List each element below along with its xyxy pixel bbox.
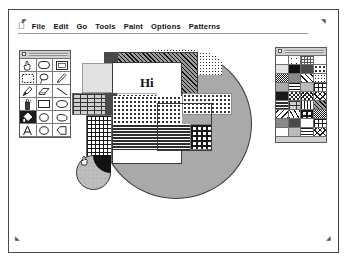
pattern-swatch[interactable]	[276, 56, 289, 65]
tool-rectangle[interactable]	[53, 59, 70, 72]
pattern-swatch[interactable]	[314, 119, 327, 128]
pattern-swatch[interactable]	[314, 101, 327, 110]
pattern-swatch[interactable]	[301, 56, 314, 65]
pattern-swatch[interactable]	[301, 128, 314, 137]
tool-palette-titlebar[interactable]	[20, 51, 70, 59]
pattern-swatch[interactable]	[289, 74, 302, 83]
paintbrush-icon	[22, 86, 33, 97]
marquee-select-icon	[22, 74, 34, 83]
eraser-icon	[38, 87, 50, 96]
tool-eraser[interactable]	[37, 85, 54, 98]
tool-lasso[interactable]	[37, 72, 54, 85]
pattern-swatch[interactable]	[314, 128, 327, 137]
patterns-palette-titlebar[interactable]	[276, 48, 326, 56]
pattern-swatch[interactable]	[276, 110, 289, 119]
oval-icon	[56, 100, 68, 108]
menu-tools[interactable]: Tools	[95, 22, 115, 31]
pencil-icon	[56, 73, 67, 84]
pattern-swatch[interactable]	[314, 56, 327, 65]
pattern-swatch[interactable]	[301, 65, 314, 74]
tool-grid	[20, 59, 70, 137]
apple-icon[interactable]: 	[18, 22, 25, 31]
rounded-rect-icon	[38, 61, 50, 69]
paint-bucket-icon	[22, 112, 33, 123]
menu-file[interactable]: File	[32, 22, 46, 31]
pattern-swatch[interactable]	[314, 83, 327, 92]
pattern-swatch[interactable]	[289, 56, 302, 65]
pattern-swatch[interactable]	[276, 65, 289, 74]
titlebar-stripes	[29, 53, 68, 56]
freeform-icon	[56, 113, 68, 122]
tool-oval[interactable]	[53, 98, 70, 111]
canvas-text-hi[interactable]: Hi	[140, 76, 154, 89]
registration-mark-bottom-left: ◣	[15, 236, 19, 240]
menu-options[interactable]: Options	[151, 22, 181, 31]
pattern-swatch[interactable]	[276, 128, 289, 137]
lasso-icon	[39, 73, 50, 84]
tool-hand-grabber[interactable]	[20, 59, 37, 72]
line-icon	[56, 87, 68, 96]
pattern-swatch[interactable]	[301, 74, 314, 83]
drawing-canvas[interactable]: Hi	[72, 40, 274, 210]
tool-rounded-rect[interactable]	[37, 59, 54, 72]
tool-text[interactable]	[20, 124, 37, 137]
polygon-icon	[56, 126, 67, 135]
pattern-swatch[interactable]	[276, 119, 289, 128]
tool-line[interactable]	[53, 85, 70, 98]
pattern-swatch[interactable]	[276, 83, 289, 92]
pattern-swatch[interactable]	[289, 92, 302, 101]
pattern-swatch[interactable]	[276, 92, 289, 101]
tool-paint-bucket[interactable]	[20, 111, 37, 124]
titlebar-stripes	[285, 50, 324, 53]
pattern-swatch[interactable]	[314, 92, 327, 101]
pattern-swatch[interactable]	[314, 74, 327, 83]
tool-hollow-rect[interactable]	[37, 98, 54, 111]
pattern-grid	[276, 56, 326, 137]
pattern-swatch[interactable]	[301, 83, 314, 92]
pattern-swatch[interactable]	[301, 119, 314, 128]
close-box-icon[interactable]	[278, 49, 282, 53]
pattern-swatch[interactable]	[289, 101, 302, 110]
tool-pencil[interactable]	[53, 72, 70, 85]
hollow-rect-icon	[38, 100, 50, 108]
pattern-swatch[interactable]	[314, 65, 327, 74]
ellipse-icon	[39, 126, 49, 135]
menu-edit[interactable]: Edit	[53, 22, 68, 31]
tool-marquee-select[interactable]	[20, 72, 37, 85]
pattern-swatch[interactable]	[314, 110, 327, 119]
pattern-swatch[interactable]	[289, 128, 302, 137]
menu-bar-divider	[18, 33, 308, 34]
pattern-swatch[interactable]	[301, 101, 314, 110]
menu-go[interactable]: Go	[76, 22, 87, 31]
pattern-swatch[interactable]	[289, 110, 302, 119]
pattern-swatch[interactable]	[301, 92, 314, 101]
outline-rect-overlay[interactable]	[157, 103, 212, 151]
spray-can-icon	[23, 99, 32, 110]
pattern-swatch[interactable]	[289, 65, 302, 74]
tool-paintbrush[interactable]	[20, 85, 37, 98]
patterns-palette[interactable]	[275, 47, 327, 143]
text-tool-icon	[22, 125, 33, 136]
circle-icon	[39, 113, 49, 122]
pattern-swatch[interactable]	[301, 110, 314, 119]
tool-ellipse[interactable]	[37, 124, 54, 137]
menu-paint[interactable]: Paint	[124, 22, 143, 31]
menu-patterns[interactable]: Patterns	[189, 22, 221, 31]
registration-mark-top-right: ◥	[321, 19, 325, 23]
rectangle-icon	[56, 61, 68, 70]
tool-polygon[interactable]	[53, 124, 70, 137]
tool-circle[interactable]	[37, 111, 54, 124]
tool-palette[interactable]	[19, 50, 71, 138]
pattern-swatch[interactable]	[289, 119, 302, 128]
hand-grabber-icon	[22, 60, 33, 71]
tool-spray-can[interactable]	[20, 98, 37, 111]
menu-bar:  File Edit Go Tools Paint Options Patte…	[18, 20, 308, 33]
screenshot-root: ◤ ◥ ◣ ◢  File Edit Go Tools Paint Optio…	[0, 0, 349, 265]
hand-cursor-icon	[80, 152, 89, 170]
close-box-icon[interactable]	[22, 52, 26, 56]
tool-freeform[interactable]	[53, 111, 70, 124]
registration-mark-bottom-right: ◢	[326, 236, 330, 240]
pattern-swatch[interactable]	[276, 74, 289, 83]
pattern-swatch[interactable]	[276, 101, 289, 110]
pattern-swatch[interactable]	[289, 83, 302, 92]
